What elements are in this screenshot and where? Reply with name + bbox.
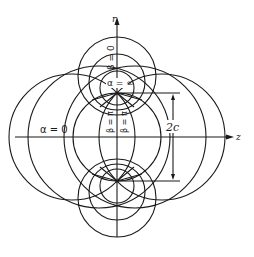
dimension-arrow-down-icon [171,174,175,180]
beta-pi-right-label: β = π [120,111,129,133]
z-axis-label: z [235,132,241,142]
focal-distance-label: 2c [165,121,179,134]
beta-pi-left-label: β = π [106,111,115,133]
alpha-zero-label: α = 0 [40,124,68,135]
beta-zero-label: β = 0 [106,45,116,70]
r-axis-label: r [112,14,117,24]
alpha-infinity-label: α = ∞ [107,78,134,88]
dimension-arrow-up-icon [171,94,175,100]
z-axis-arrow-icon [226,135,234,140]
bispherical-coordinates-diagram: 2c r z α = 0 α = ∞ β = 0 β = π β = π [0,0,254,257]
